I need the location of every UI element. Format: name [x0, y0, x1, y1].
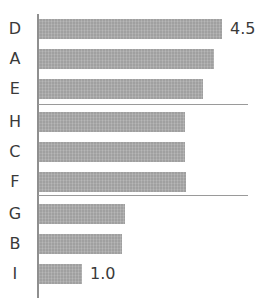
bar	[39, 79, 203, 99]
bar-row: B	[0, 229, 271, 259]
bar-row: H	[0, 107, 271, 137]
category-label: F	[0, 167, 30, 197]
bar-row: F	[0, 167, 271, 197]
category-label: I	[0, 259, 30, 289]
category-label: B	[0, 229, 30, 259]
bar-row: G	[0, 199, 271, 229]
bar	[39, 112, 185, 132]
category-label: C	[0, 137, 30, 167]
bar-value-label: 1.0	[90, 259, 115, 289]
category-label: D	[0, 14, 30, 44]
bar	[39, 49, 214, 69]
bar	[39, 172, 186, 192]
bar	[39, 19, 222, 39]
bar-row: A	[0, 44, 271, 74]
bar	[39, 264, 82, 284]
bar-row: C	[0, 137, 271, 167]
bar	[39, 142, 185, 162]
bar	[39, 234, 122, 254]
bar-row: I1.0	[0, 259, 271, 289]
category-label: A	[0, 44, 30, 74]
plot-area: D4.5AEHCFGBI1.0	[0, 0, 271, 303]
bar-row: E	[0, 74, 271, 104]
category-label: E	[0, 74, 30, 104]
bar	[39, 204, 125, 224]
category-label: G	[0, 199, 30, 229]
bar-row: D4.5	[0, 14, 271, 44]
category-label: H	[0, 107, 30, 137]
bar-value-label: 4.5	[230, 14, 255, 44]
bar-chart: D4.5AEHCFGBI1.0	[0, 0, 271, 303]
group-separator-line	[38, 104, 248, 105]
